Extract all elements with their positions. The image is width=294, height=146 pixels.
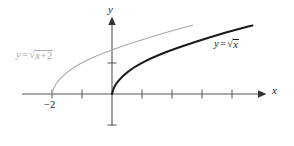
y-axis-arrowhead (108, 17, 115, 26)
dark-equation-lhs: y (214, 38, 219, 49)
curve-sqrt-x-plus-2 (52, 25, 193, 94)
x-axis-label: x (272, 85, 277, 96)
plot-canvas (0, 0, 294, 146)
dark-equation-equals: = (219, 38, 227, 49)
gray-equation-radical: √x+2 (29, 49, 53, 61)
gray-radicand-constant: 2 (47, 50, 52, 61)
axes-group (22, 17, 267, 127)
dark-equation-radical: √x (227, 38, 239, 50)
gray-equation-lhs: y (16, 49, 21, 60)
dark-curve-equation-label: y=√x (214, 38, 239, 50)
curve-sqrt-x (112, 25, 253, 94)
gray-equation-equals: = (21, 49, 29, 60)
x-axis-arrowhead (258, 90, 267, 97)
x-tick-label-neg2: −2 (44, 100, 55, 111)
graph-figure: y x −2 y=√x+2 y=√x (0, 0, 294, 146)
gray-equation-radicand: x+2 (35, 50, 54, 62)
dark-equation-radicand: x (233, 39, 240, 51)
gray-curve-equation-label: y=√x+2 (16, 49, 53, 61)
gray-radicand-plus: + (40, 50, 47, 61)
y-axis-label: y (108, 4, 113, 15)
